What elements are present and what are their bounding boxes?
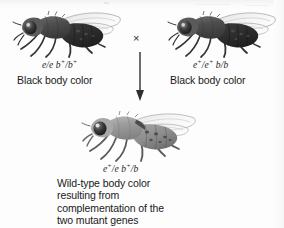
caption-line-3: complementation of the <box>57 202 164 214</box>
phenotype-label-parent-right: Black body color <box>170 74 245 86</box>
fruit-fly-illustration-offspring <box>80 104 202 166</box>
caption-line-4: two mutant genes <box>57 214 164 226</box>
caption-line-2: resulting from <box>57 189 164 201</box>
down-arrow-icon <box>132 52 148 106</box>
multiplication-cross-icon: × <box>133 33 139 44</box>
genotype-label-parent-right: e+/e+ b/b <box>193 60 228 70</box>
caption-line-1: Wild-type body color <box>57 177 164 189</box>
fruit-fly-illustration-parent-right <box>167 4 281 62</box>
genotype-label-offspring: e+/e b+/b <box>103 164 138 174</box>
phenotype-label-parent-left: Black body color <box>17 74 92 86</box>
genotype-label-parent-left: e/e b+/b+ <box>42 60 77 70</box>
complementation-figure: × e/e b+/b+ Black body color e+/e+ b/b B… <box>0 0 284 228</box>
offspring-caption: Wild-type body color resulting from comp… <box>57 177 164 227</box>
fruit-fly-illustration-parent-left <box>12 4 126 62</box>
